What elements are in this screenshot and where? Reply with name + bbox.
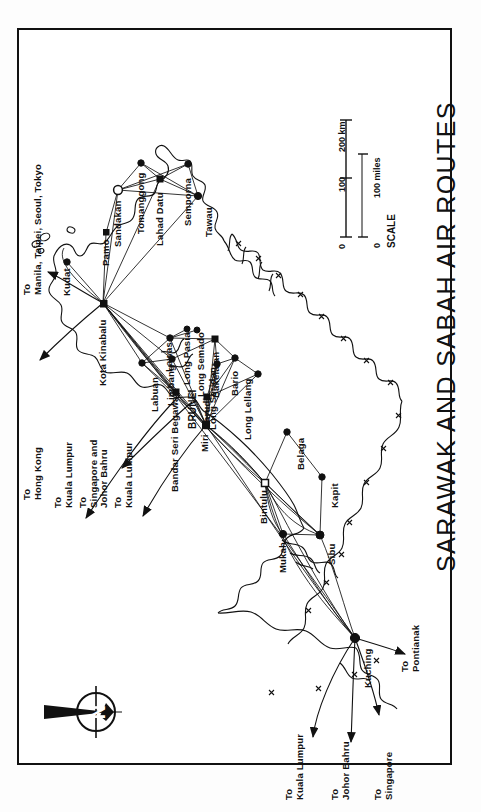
place-label-kota-kinabalu: Kota Kinabalu xyxy=(98,320,109,386)
destination-label-8: To Pontianak xyxy=(400,625,421,672)
place-label-pamo: Pamo xyxy=(101,239,112,266)
place-label-kuching: Kuching xyxy=(363,649,374,688)
scale-km-tick-0: 0 xyxy=(337,244,347,249)
air-routes-map-page: N SARAWAK AND SABAH AIR ROUTES SCALE 0 1… xyxy=(0,0,481,812)
place-label-miri: Miri xyxy=(200,434,211,452)
place-label-sandakan: Sandakan xyxy=(113,201,124,247)
place-label-marudi: Marudi xyxy=(202,398,213,430)
place-label-kudat: Kudat xyxy=(62,268,73,296)
place-label-sibu: Sibu xyxy=(327,544,338,565)
place-label-kapit: Kapit xyxy=(330,483,341,508)
destination-label-0: To Manila, Taipei, Seoul, Tokyo xyxy=(22,164,43,295)
place-label-brunei: BRUNEI xyxy=(187,389,198,429)
place-label-bandar-seri-begawan: Bandar Seri Begawan xyxy=(170,391,181,492)
place-label-semporna: Semporna xyxy=(183,178,194,226)
destination-label-3: To Singapore and Johor Bahru xyxy=(78,439,110,508)
international-boundary xyxy=(232,234,402,644)
scale-km-tick-100: 100 xyxy=(337,177,347,192)
svg-text:N: N xyxy=(87,705,109,719)
place-label-tawau: Tawau xyxy=(204,207,215,237)
north-arrow-graphic: N xyxy=(44,686,122,738)
scale-mile-tick-100: 100 miles xyxy=(372,157,382,198)
destination-label-1: To Hong Kong xyxy=(22,447,43,500)
place-label-mukah: Mukah xyxy=(278,542,289,573)
place-label-long-semado: Long Semado xyxy=(196,332,207,397)
place-label-long-pasia: Long Pasia xyxy=(182,332,193,385)
boundary-x-marks xyxy=(236,241,401,695)
destination-label-4: To Kuala Lumpur xyxy=(113,442,134,508)
map-graphics: N xyxy=(0,0,481,812)
destination-label-7: To Singapore xyxy=(373,752,394,800)
place-label-bario: Bario xyxy=(230,371,241,396)
place-label-tomanggong: Tomanggong xyxy=(136,173,147,234)
scale-mile-tick-0: 0 xyxy=(372,243,382,248)
scale-km-tick-200: 200 km xyxy=(337,121,347,152)
place-label-labuan: Labuan xyxy=(150,377,161,412)
destination-label-2: To Kuala Lumpur xyxy=(53,442,74,508)
place-label-belaga: Belaga xyxy=(296,438,307,470)
scale-caption: SCALE xyxy=(386,214,397,248)
place-label-bintulu: Bintulu xyxy=(259,490,270,524)
place-label-long-lellang: Long Lellang xyxy=(243,378,254,440)
destination-label-6: To Johor Bahru xyxy=(330,741,351,800)
place-label-lahad-datu: Lahad Datu xyxy=(155,192,166,246)
destination-label-5: To Kuala Lumpur xyxy=(284,734,305,800)
page-title: SARAWAK AND SABAH AIR ROUTES xyxy=(432,101,461,572)
